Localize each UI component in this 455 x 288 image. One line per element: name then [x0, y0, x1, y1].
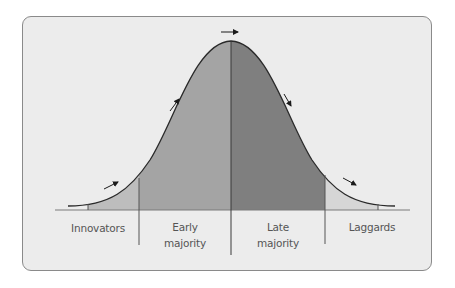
arrow-up-right-icon — [104, 182, 118, 189]
segment-late-majority-fill — [231, 30, 325, 210]
label-innovators: Innovators — [66, 220, 130, 236]
arrow-down-right-icon — [343, 178, 356, 185]
label-laggards: Laggards — [340, 219, 404, 235]
segment-early-majority-fill — [139, 30, 231, 210]
bell-curve-diagram — [0, 0, 455, 288]
label-late-majority: Late majority — [242, 219, 314, 251]
label-early-majority: Early majority — [150, 219, 220, 251]
